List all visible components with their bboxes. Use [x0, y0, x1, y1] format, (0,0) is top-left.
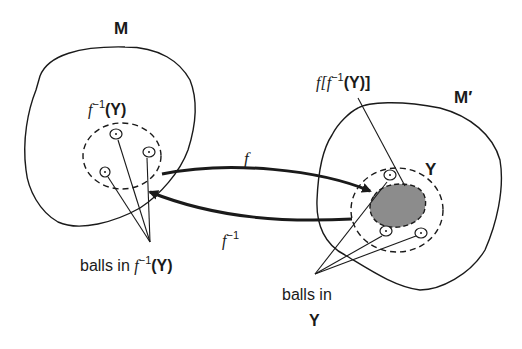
- label-balls-in-preimage: balls in f−1(Y): [80, 254, 173, 275]
- diagram-svg: M M′ f−1(Y) f[f−1(Y)] Y f f−1 balls in f…: [0, 0, 522, 349]
- label-balls-in-y-line1: balls in: [282, 286, 332, 303]
- diagram-canvas: M M′ f−1(Y) f[f−1(Y)] Y f f−1 balls in f…: [0, 0, 522, 349]
- label-arrow-f: f: [244, 149, 251, 168]
- label-image-of-preimage: f[f−1(Y)]: [316, 71, 370, 92]
- label-space-m: M: [114, 19, 128, 38]
- label-balls-in-y-line2: Y: [309, 312, 320, 329]
- arrow-f: [162, 168, 370, 191]
- arrow-f-inverse: [150, 192, 352, 220]
- label-preimage: f−1(Y): [88, 98, 126, 119]
- image-of-preimage-region: [370, 184, 426, 227]
- label-set-y: Y: [425, 160, 437, 179]
- label-arrow-f-inverse: f−1: [222, 229, 239, 250]
- image-label-pointer: [358, 98, 405, 186]
- label-space-m-prime: M′: [454, 88, 472, 107]
